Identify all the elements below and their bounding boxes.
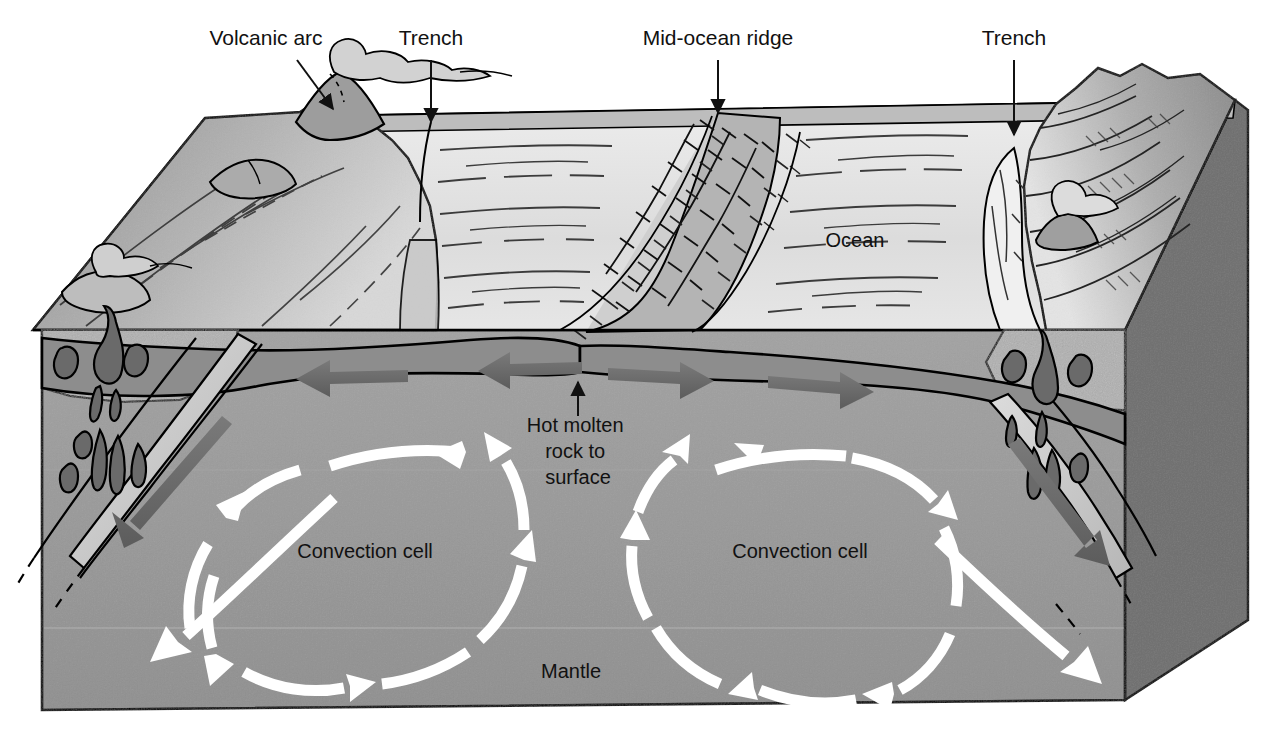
label-trench-right: Trench xyxy=(982,26,1047,49)
hot-molten-line-2: rock to xyxy=(545,440,605,462)
label-mantle: Mantle xyxy=(541,660,601,682)
hot-molten-line-1: Hot molten xyxy=(527,414,624,436)
top-surface xyxy=(33,39,1235,339)
label-convection-cell-right: Convection cell xyxy=(732,540,868,562)
plate-tectonics-diagram: Volcanic arc Trench Mid-ocean ridge Tren… xyxy=(0,0,1262,734)
label-ocean: Ocean xyxy=(826,229,885,251)
label-convection-cell-left: Convection cell xyxy=(297,540,433,562)
label-trench-left: Trench xyxy=(399,26,464,49)
label-volcanic-arc: Volcanic arc xyxy=(209,26,322,49)
label-mid-ocean-ridge: Mid-ocean ridge xyxy=(643,26,794,49)
hot-molten-line-3: surface xyxy=(545,466,611,488)
diagram-canvas: Volcanic arc Trench Mid-ocean ridge Tren… xyxy=(0,0,1262,734)
